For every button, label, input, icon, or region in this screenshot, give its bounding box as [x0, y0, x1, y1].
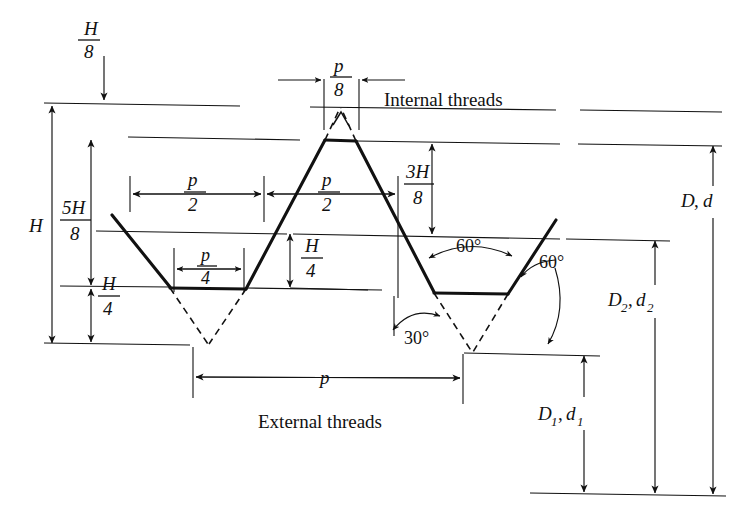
- label-H-over-4-center: H 4: [301, 235, 323, 281]
- root-vee-1-right: [209, 289, 246, 344]
- label-p-over-8: p 8: [330, 55, 352, 100]
- root-vee-1-left: [170, 288, 208, 344]
- label-pitch: p: [318, 367, 330, 388]
- major-diameter-line-right: [578, 144, 722, 146]
- svg-text:D: D: [537, 403, 552, 424]
- svg-text:H: H: [304, 235, 320, 256]
- label-angle-30: 30°: [404, 328, 429, 348]
- svg-text:D: D: [607, 289, 622, 310]
- svg-text:2: 2: [188, 194, 198, 215]
- svg-text:p: p: [199, 245, 210, 265]
- label-p-over-2-right: p 2: [318, 169, 340, 215]
- label-p-over-4: p 4: [197, 245, 217, 288]
- label-H-over-8: H 8: [78, 18, 100, 62]
- thread-profile-diagram: H 8 H 5H 8 H 4 p 8 p 2 p 2 p 4 H: [0, 0, 756, 516]
- apex-extension-left: [325, 108, 340, 140]
- internal-apex-caret: [333, 112, 349, 126]
- svg-text:p: p: [186, 169, 198, 190]
- svg-text:8: 8: [84, 41, 94, 62]
- flank-left-partial: [112, 215, 170, 287]
- major-diameter-line-mid: [356, 141, 560, 144]
- thread-profile-solid: [112, 140, 556, 294]
- svg-text:8: 8: [413, 187, 423, 208]
- svg-text:2: 2: [647, 300, 654, 315]
- diagram-canvas: H 8 H 5H 8 H 4 p 8 p 2 p 2 p 4 H: [0, 0, 756, 516]
- svg-text:d: d: [566, 403, 576, 424]
- svg-text:p: p: [320, 169, 332, 190]
- label-angle-60-flank: 60°: [539, 252, 564, 272]
- angle-60-flank-leader-lower: [548, 268, 560, 344]
- svg-text:,: ,: [628, 289, 633, 310]
- svg-text:5H: 5H: [62, 197, 87, 218]
- svg-text:,: ,: [694, 190, 699, 211]
- label-3H-over-8: 3H 8: [404, 161, 434, 208]
- svg-text:H: H: [101, 273, 117, 294]
- sharp-crest-line-left: [44, 103, 240, 106]
- label-angle-60-included: 60°: [456, 236, 481, 256]
- svg-text:3H: 3H: [405, 161, 431, 182]
- root-vee-2-right: [473, 294, 508, 352]
- sharp-root-line-left: [44, 343, 190, 345]
- label-minor-diameter: D 1 , d 1: [537, 403, 584, 429]
- sharp-crest-line-far-right: [580, 110, 722, 112]
- svg-text:p: p: [332, 55, 344, 76]
- label-major-diameter: D , d: [680, 190, 713, 211]
- caption-external-threads: External threads: [258, 411, 382, 432]
- label-5H-over-8: 5H 8: [60, 197, 91, 244]
- sharp-vee-extensions: [170, 108, 508, 352]
- svg-text:d: d: [636, 289, 646, 310]
- svg-text:4: 4: [306, 260, 316, 281]
- root-vee-2-left: [434, 293, 472, 352]
- label-pitch-diameter: D 2 , d 2: [607, 289, 654, 315]
- label-p-over-2-left: p 2: [184, 169, 206, 215]
- svg-text:4: 4: [103, 298, 113, 319]
- root-flat-2: [434, 293, 508, 294]
- svg-text:1: 1: [577, 414, 584, 429]
- major-diameter-line-left: [128, 137, 300, 140]
- pitch-diameter-line-mid: [293, 234, 560, 239]
- svg-text:1: 1: [551, 414, 558, 429]
- svg-text:8: 8: [70, 223, 80, 244]
- svg-text:8: 8: [334, 79, 344, 100]
- sharp-root-line-right: [464, 353, 600, 356]
- svg-text:,: ,: [558, 403, 563, 424]
- pitch-diameter-line-right: [566, 239, 670, 241]
- root-flat-1: [170, 288, 246, 289]
- svg-text:d: d: [703, 190, 713, 211]
- svg-text:D: D: [680, 190, 695, 211]
- svg-text:2: 2: [621, 300, 628, 315]
- svg-text:4: 4: [201, 268, 210, 288]
- svg-text:2: 2: [322, 194, 332, 215]
- caption-internal-threads: Internal threads: [384, 89, 503, 110]
- svg-text:H: H: [83, 18, 99, 39]
- crest-flat-1: [325, 140, 356, 141]
- bottom-datum-line: [530, 493, 726, 496]
- label-H-total: H: [28, 215, 44, 236]
- label-H-over-4-left: H 4: [98, 273, 120, 319]
